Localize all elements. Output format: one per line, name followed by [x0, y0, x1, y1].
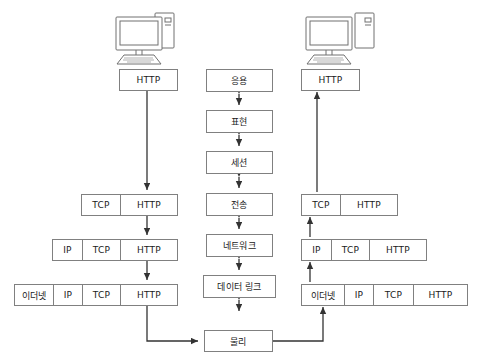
pdu-cell-tcp: TCP: [331, 240, 369, 260]
tcpip-encapsulation-diagram: HTTP TCP HTTP IP TCP HTTP 이더넷 IP TCP HTT…: [0, 0, 477, 361]
pdu-cell-http: HTTP: [302, 70, 359, 90]
receiver-network-pdu: IP TCP HTTP: [301, 239, 427, 261]
pdu-cell-ip: IP: [344, 285, 373, 305]
pdu-cell-tcp: TCP: [373, 285, 413, 305]
pdu-cell-tcp: TCP: [82, 240, 120, 260]
pdu-cell-tcp: TCP: [302, 195, 340, 215]
sender-transport-pdu: TCP HTTP: [81, 194, 178, 216]
osi-layer-label: 표현: [231, 115, 247, 128]
osi-layer-label: 네트워크: [223, 239, 256, 252]
connector-layer: [0, 0, 477, 361]
osi-layer-presentation: 표현: [206, 110, 273, 133]
osi-layer-datalink: 데이터 링크: [203, 275, 276, 298]
sender-http-pdu: HTTP: [119, 69, 178, 91]
osi-layer-physical: 물리: [204, 330, 273, 352]
pdu-cell-http: HTTP: [120, 70, 177, 90]
pdu-cell-ethernet: 이더넷: [302, 285, 344, 305]
pdu-cell-http: HTTP: [120, 285, 177, 305]
sender-network-pdu: IP TCP HTTP: [52, 239, 178, 261]
pdu-cell-http: HTTP: [413, 285, 467, 305]
receiver-http-pdu: HTTP: [301, 69, 360, 91]
pdu-cell-ip: IP: [53, 240, 82, 260]
pdu-cell-http: HTTP: [120, 240, 177, 260]
osi-layer-transport: 전송: [206, 193, 273, 216]
pdu-cell-tcp: TCP: [82, 195, 120, 215]
sender-link-pdu: 이더넷 IP TCP HTTP: [14, 284, 178, 306]
physical-to-receiver-link-arrow: [272, 307, 323, 341]
sender-computer-icon: [116, 13, 174, 64]
osi-layer-label: 데이터 링크: [217, 280, 261, 293]
sender-link-to-physical-arrow: [147, 305, 198, 341]
pdu-cell-http: HTTP: [369, 240, 426, 260]
pdu-cell-ethernet: 이더넷: [15, 285, 53, 305]
osi-layer-application: 응용: [206, 69, 273, 92]
pdu-cell-ip: IP: [53, 285, 82, 305]
osi-layer-label: 물리: [230, 335, 246, 348]
receiver-link-pdu: 이더넷 IP TCP HTTP: [301, 284, 468, 306]
pdu-cell-tcp: TCP: [82, 285, 120, 305]
osi-layer-label: 응용: [231, 74, 247, 87]
osi-layer-network: 네트워크: [206, 234, 273, 257]
receiver-transport-pdu: TCP HTTP: [301, 194, 398, 216]
osi-layer-label: 세션: [231, 156, 247, 169]
osi-layer-label: 전송: [231, 198, 247, 211]
osi-layer-session: 세션: [206, 151, 273, 174]
pdu-cell-ip: IP: [302, 240, 331, 260]
pdu-cell-http: HTTP: [120, 195, 177, 215]
receiver-computer-icon: [306, 13, 374, 64]
pdu-cell-http: HTTP: [340, 195, 397, 215]
